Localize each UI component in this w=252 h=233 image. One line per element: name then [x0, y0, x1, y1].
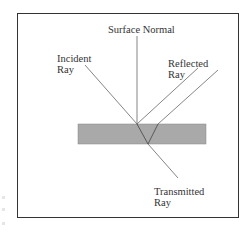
- incident-label-line1: Incident: [57, 53, 91, 64]
- transmitted-label-line1: Transmitted: [154, 186, 204, 197]
- incident-label-line2: Ray: [57, 64, 91, 75]
- reflected-label-line1: Reflected: [168, 58, 208, 69]
- incident-ray-line: [85, 65, 137, 124]
- transmitted-ray-line: [148, 144, 178, 178]
- reflected-ray-label: Reflected Ray: [168, 58, 208, 80]
- scan-artifact: [2, 222, 5, 225]
- surface-normal-label: Surface Normal: [108, 24, 175, 35]
- transmitted-label-line2: Ray: [154, 197, 204, 208]
- incident-ray-label: Incident Ray: [57, 53, 91, 75]
- transmitted-ray-label: Transmitted Ray: [154, 186, 204, 208]
- scan-artifact: [2, 208, 5, 211]
- scan-artifact: [2, 196, 5, 199]
- reflected-label-line2: Ray: [168, 69, 208, 80]
- medium-slab: [78, 124, 206, 144]
